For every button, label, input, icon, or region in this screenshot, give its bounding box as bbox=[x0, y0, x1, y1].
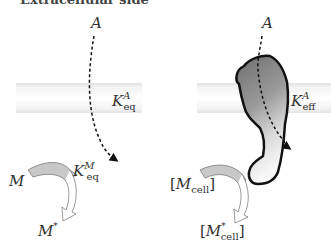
left-reaction-constant: KMeq bbox=[72, 160, 99, 182]
right-ligand-label: A bbox=[260, 14, 273, 32]
left-panel: A KAeq M KMeq M* bbox=[8, 14, 142, 240]
right-reactant-label: [Mcell] bbox=[170, 175, 215, 195]
transport-protein bbox=[236, 56, 288, 184]
right-product-label: [M*cell] bbox=[200, 221, 245, 242]
transport-diagram: Extracellular side A KAeq M KMeq M* A bbox=[0, 0, 331, 245]
right-panel: A KAeff [Mcell] [M*cell] bbox=[170, 14, 331, 242]
left-ligand-label: A bbox=[89, 14, 102, 32]
left-product-label: M* bbox=[37, 221, 58, 240]
right-reaction-arrow-head-part bbox=[200, 165, 246, 183]
panel-title: Extracellular side bbox=[20, 0, 149, 7]
left-reactant-label: M bbox=[8, 172, 25, 190]
